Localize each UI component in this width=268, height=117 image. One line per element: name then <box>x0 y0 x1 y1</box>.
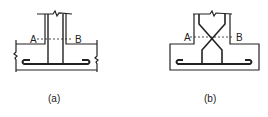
slab-right-edge <box>95 40 98 72</box>
figure-a <box>14 11 98 72</box>
section-label-b: B <box>75 34 82 45</box>
section-label-b: B <box>236 32 243 43</box>
section-label-a: A <box>30 34 37 45</box>
diagram-canvas: A B (a) A B (b) <box>0 0 268 117</box>
column-slab-outline <box>16 14 97 44</box>
slab-left-edge <box>14 40 17 72</box>
figure-caption-a: (a) <box>48 93 60 104</box>
rebar-bottom-hooked <box>23 60 90 64</box>
figure-caption-b: (b) <box>204 93 216 104</box>
section-label-a: A <box>184 32 191 43</box>
rebar-bottom-hooked <box>177 60 252 64</box>
column-top-break-line <box>37 11 72 16</box>
